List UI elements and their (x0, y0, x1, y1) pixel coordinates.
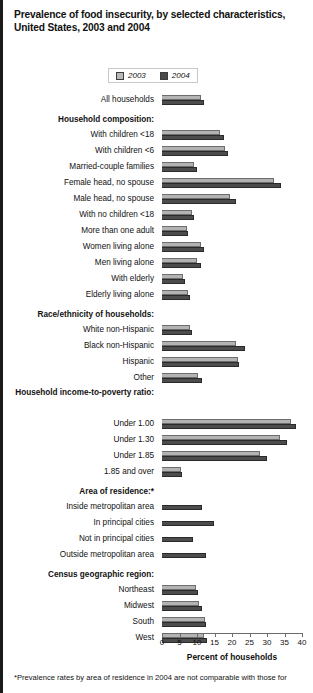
chart-row-label: Under 1.85 (2, 451, 157, 461)
x-axis-tick (162, 633, 163, 637)
chart-row-label: Household income-to-poverty ratio: (2, 388, 157, 398)
x-axis-tick-label: 15 (210, 638, 219, 647)
chart-row-label: Area of residence:* (2, 487, 157, 497)
chart-legend: 2003 2004 (108, 68, 198, 83)
bar-2004 (162, 456, 267, 461)
chart-row-label: Outside metropolitan area (2, 550, 157, 560)
bar-2004 (162, 330, 192, 335)
footnote-divider (14, 668, 304, 669)
bar-2004 (162, 362, 239, 367)
chart-row-label: West (2, 633, 157, 643)
bar-2004 (162, 553, 206, 558)
bar-2004 (162, 378, 202, 383)
chart-row-label: Women living alone (2, 242, 157, 252)
chart-row-label: Northeast (2, 585, 157, 595)
chart-figure: Prevalence of food insecurity, by select… (0, 0, 313, 693)
chart-row-label: All households (2, 95, 157, 105)
page-title: Prevalence of food insecurity, by select… (14, 9, 306, 34)
x-axis-title: Percent of households (162, 652, 302, 662)
chart-row-label: With children <18 (2, 130, 157, 140)
chart-row-label: Female head, no spouse (2, 178, 157, 188)
x-axis: 0510152025303540 (162, 633, 302, 634)
legend-item-2003: 2003 (116, 71, 146, 80)
chart-row-label: Inside metropolitan area (2, 502, 157, 512)
x-axis-tick (285, 633, 286, 637)
bar-2004 (162, 521, 214, 526)
chart-row-label: Men living alone (2, 258, 157, 268)
chart-row-label: With elderly (2, 274, 157, 284)
bar-2004 (162, 279, 185, 284)
chart-row-label: 1.85 and over (2, 467, 157, 477)
legend-label-2003: 2003 (128, 71, 146, 80)
x-axis-tick-label: 5 (177, 638, 181, 647)
bar-2004 (162, 183, 281, 188)
legend-swatch-icon-2004 (160, 72, 168, 80)
bar-2004 (162, 263, 201, 268)
chart-row-label: White non-Hispanic (2, 325, 157, 335)
chart-row-label: Household composition: (2, 115, 157, 125)
bar-2004 (162, 440, 287, 445)
legend-label-2004: 2004 (172, 71, 190, 80)
footnote-text: *Prevalence rates by area of residence i… (14, 673, 310, 682)
x-axis-tick (215, 633, 216, 637)
bar-2004 (162, 215, 194, 220)
legend-item-2004: 2004 (160, 71, 190, 80)
x-axis-tick-label: 35 (280, 638, 289, 647)
chart-row-label: Race/ethnicity of households: (2, 310, 157, 320)
chart-row-label: Other (2, 373, 157, 383)
bar-2004 (162, 295, 190, 300)
x-axis-tick (302, 633, 303, 637)
chart-row-label: In principal cities (2, 518, 157, 528)
x-axis-tick-label: 25 (245, 638, 254, 647)
chart-row-label: Not in principal cities (2, 534, 157, 544)
chart-row-label: Midwest (2, 601, 157, 611)
x-axis-tick (197, 633, 198, 637)
bar-2004 (162, 424, 296, 429)
chart-row-label: Married-couple families (2, 162, 157, 172)
x-axis-tick (267, 633, 268, 637)
bar-2004 (162, 606, 202, 611)
legend-swatch-icon-2003 (116, 72, 124, 80)
chart-row-label: Census geographic region: (2, 570, 157, 580)
bar-2004 (162, 100, 204, 105)
chart-row-label: South (2, 617, 157, 627)
bar-2004 (162, 622, 206, 627)
bar-2004 (162, 151, 228, 156)
bar-2004 (162, 472, 182, 477)
bar-2004 (162, 167, 197, 172)
chart-row-label: Elderly living alone (2, 290, 157, 300)
plot-area: All householdsHousehold composition:With… (3, 95, 313, 640)
bar-2004 (162, 537, 193, 542)
x-axis-tick (180, 633, 181, 637)
chart-row-label: Male head, no spouse (2, 194, 157, 204)
bar-2004 (162, 247, 204, 252)
bar-2004 (162, 231, 188, 236)
bar-2004 (162, 590, 198, 595)
x-axis-tick (232, 633, 233, 637)
x-axis-tick-label: 30 (263, 638, 272, 647)
chart-row-label: With children <6 (2, 146, 157, 156)
chart-row-label: More than one adult (2, 226, 157, 236)
x-axis-tick (250, 633, 251, 637)
bar-2004 (162, 505, 202, 510)
x-axis-tick-label: 10 (193, 638, 202, 647)
x-axis-tick-label: 40 (298, 638, 307, 647)
chart-row-label: Under 1.30 (2, 435, 157, 445)
bar-2004 (162, 346, 245, 351)
bar-2004 (162, 135, 224, 140)
chart-row-label: Black non-Hispanic (2, 341, 157, 351)
x-axis-tick-label: 20 (228, 638, 237, 647)
x-axis-tick-label: 0 (160, 638, 164, 647)
chart-row-label: Under 1.00 (2, 419, 157, 429)
bar-2004 (162, 199, 236, 204)
chart-row-label: With no children <18 (2, 210, 157, 220)
chart-row-label: Hispanic (2, 357, 157, 367)
